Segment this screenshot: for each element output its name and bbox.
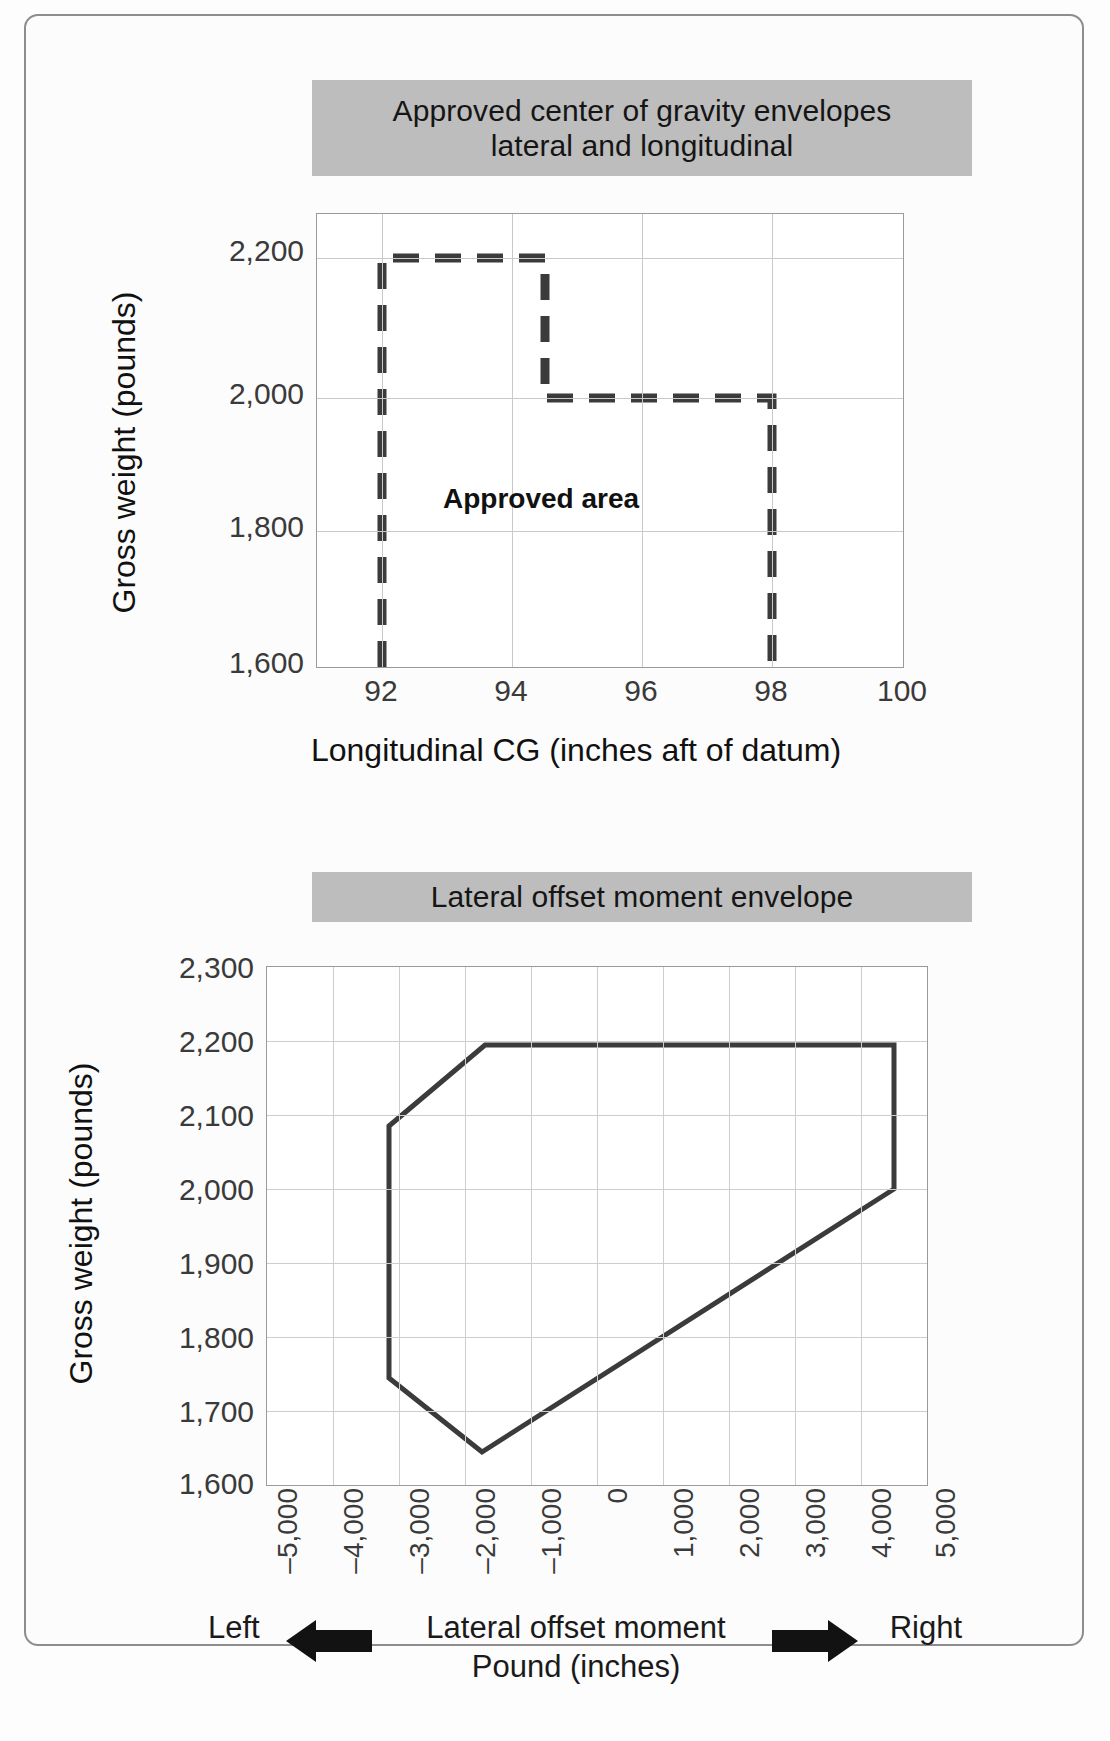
chart2-gridline-h — [267, 1041, 927, 1042]
chart2-ytick: 2,300 — [179, 951, 254, 985]
chart1-title-line2: lateral and longitudinal — [491, 129, 794, 162]
chart2-xtick: 5,000 — [930, 1488, 962, 1558]
chart1-ytick: 2,000 — [229, 377, 304, 411]
chart2-y-tick-labels: 2,300 2,200 2,100 2,000 1,900 1,800 1,70… — [126, 966, 254, 1484]
chart2-gridline-h — [267, 1411, 927, 1412]
chart2-ytick: 1,800 — [179, 1321, 254, 1355]
chart1-gridline-h — [317, 398, 903, 399]
chart1-y-axis-title: Gross weight (pounds) — [106, 243, 143, 663]
chart2-gridline-v — [663, 967, 664, 1485]
chart2-title-banner: Lateral offset moment envelope — [312, 872, 972, 922]
chart1-envelope-path — [382, 258, 772, 667]
chart1-ytick: 1,600 — [229, 646, 304, 680]
chart1-xtick: 98 — [754, 674, 787, 708]
chart2-xtick: –5,000 — [272, 1488, 304, 1574]
chart2-gridline-v — [597, 967, 598, 1485]
chart2-title: Lateral offset moment envelope — [431, 879, 854, 914]
chart2-xtick: 1,000 — [668, 1488, 700, 1558]
chart2-gridline-h — [267, 1115, 927, 1116]
chart1-plot-area: Approved area — [316, 213, 904, 668]
chart2-xtick: 4,000 — [866, 1488, 898, 1558]
chart2-gridline-h — [267, 1337, 927, 1338]
chart2-gridline-v — [465, 967, 466, 1485]
chart1-gridline-v — [382, 214, 383, 667]
chart2-gridline-v — [333, 967, 334, 1485]
chart2-x-axis-title-line2: Pound (inches) — [472, 1649, 681, 1684]
chart1-ytick: 2,200 — [229, 234, 304, 268]
chart2-gridline-v — [795, 967, 796, 1485]
chart2-gridline-h — [267, 1263, 927, 1264]
chart2-gridline-v — [729, 967, 730, 1485]
chart2-xtick: –4,000 — [338, 1488, 370, 1574]
chart1-xtick: 100 — [877, 674, 927, 708]
chart1-envelope-svg — [317, 214, 903, 667]
chart2-xtick: 3,000 — [800, 1488, 832, 1558]
chart1-xtick: 96 — [624, 674, 657, 708]
chart1-gridline-v — [642, 214, 643, 667]
chart2-ytick: 1,600 — [179, 1467, 254, 1501]
chart2-xtick: 2,000 — [734, 1488, 766, 1558]
chart1-gridline-v — [512, 214, 513, 667]
chart2-gridline-v — [531, 967, 532, 1485]
chart1-x-tick-labels: 92 94 96 98 100 — [316, 674, 902, 718]
chart2-y-axis-title: Gross weight (pounds) — [63, 1004, 100, 1444]
chart2-gridline-v — [399, 967, 400, 1485]
chart2-ytick: 2,100 — [179, 1099, 254, 1133]
chart1-approved-area-label: Approved area — [443, 483, 639, 515]
chart2-plot-area — [266, 966, 928, 1486]
chart1-ytick: 1,800 — [229, 510, 304, 544]
chart1-xtick: 94 — [494, 674, 527, 708]
chart2-gridline-v — [861, 967, 862, 1485]
chart1-y-tick-labels: 2,200 2,000 1,800 1,600 — [176, 213, 304, 666]
chart2-xtick: –1,000 — [536, 1488, 568, 1574]
arrow-right-icon — [772, 1620, 858, 1662]
chart2-right-label: Right — [890, 1610, 962, 1646]
chart2-ytick: 1,900 — [179, 1247, 254, 1281]
figure-page: Approved center of gravity envelopes lat… — [0, 0, 1110, 1741]
chart2-gridline-h — [267, 1189, 927, 1190]
chart2-xtick: –2,000 — [470, 1488, 502, 1574]
chart2-x-tick-labels: –5,000 –4,000 –3,000 –2,000 –1,000 0 1,0… — [266, 1488, 926, 1596]
chart1-title-line1: Approved center of gravity envelopes — [393, 94, 892, 127]
chart1-x-axis-title: Longitudinal CG (inches aft of datum) — [176, 732, 976, 769]
chart2-x-axis-title-line1: Lateral offset moment — [426, 1610, 725, 1645]
chart2-ytick: 2,200 — [179, 1025, 254, 1059]
chart2-ytick: 2,000 — [179, 1173, 254, 1207]
chart2-ytick: 1,700 — [179, 1395, 254, 1429]
chart2-axis-footer: Left Lateral offset moment Pound (inches… — [176, 1604, 976, 1696]
chart2-xtick: –3,000 — [404, 1488, 436, 1574]
figure-card: Approved center of gravity envelopes lat… — [24, 14, 1084, 1646]
chart1-xtick: 92 — [364, 674, 397, 708]
chart1-gridline-v — [772, 214, 773, 667]
chart1-gridline-h — [317, 258, 903, 259]
chart1-title-banner: Approved center of gravity envelopes lat… — [312, 80, 972, 176]
chart2-xtick: 0 — [602, 1488, 634, 1504]
chart1-gridline-h — [317, 531, 903, 532]
